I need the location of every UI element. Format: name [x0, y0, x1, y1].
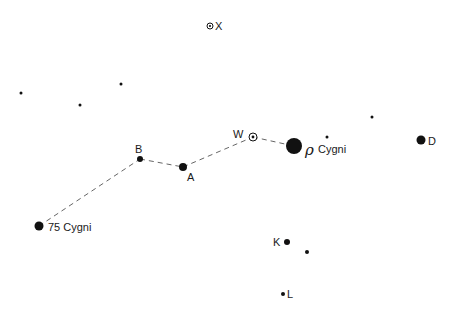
star-f4-icon — [326, 136, 329, 139]
star-d-icon — [417, 136, 426, 145]
star-rho-icon — [286, 138, 302, 154]
label-cygni: Cygni — [318, 143, 346, 155]
star-a-icon — [179, 163, 187, 171]
star-b-icon — [137, 156, 143, 162]
star-w-icon — [249, 133, 257, 141]
star-f3-icon — [120, 83, 123, 86]
label-b: B — [135, 143, 142, 155]
star-l-icon — [281, 292, 285, 296]
path-segment-75Cyg-B — [39, 159, 140, 226]
label-x: X — [215, 20, 223, 32]
label-k: K — [273, 236, 281, 248]
star-labels: XWCygniAB75 CygniDKLρ — [48, 20, 436, 300]
label-75-cygni: 75 Cygni — [48, 221, 91, 233]
dashed-path — [39, 137, 294, 226]
stars — [20, 23, 426, 296]
star-f5-icon — [371, 116, 374, 119]
path-segment-B-A — [140, 159, 183, 167]
star-75cyg-icon — [35, 222, 44, 231]
star-x-icon — [207, 23, 213, 29]
star-f1-icon — [20, 92, 23, 95]
star-f6-icon — [305, 250, 309, 254]
star-k-icon — [284, 239, 290, 245]
star-chart: XWCygniAB75 CygniDKLρ — [0, 0, 460, 316]
label-rho-symbol: ρ — [304, 141, 314, 159]
label-d: D — [428, 135, 436, 147]
label-l: L — [287, 288, 293, 300]
label-a: A — [187, 171, 195, 183]
path-segment-A-W — [183, 137, 253, 167]
label-w: W — [233, 128, 244, 140]
star-f2-icon — [79, 104, 82, 107]
